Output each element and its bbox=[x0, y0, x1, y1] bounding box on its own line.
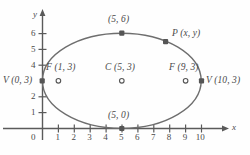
x-tick-label-8: 8 bbox=[167, 133, 172, 142]
x-tick-label-2: 2 bbox=[71, 133, 76, 142]
y-axis-arrow bbox=[40, 9, 46, 16]
marker-point-p bbox=[163, 39, 168, 44]
y-tick-label-2: 2 bbox=[31, 92, 36, 101]
x-tick-label-4: 4 bbox=[103, 133, 108, 142]
x-tick-label-1: 1 bbox=[56, 133, 61, 142]
y-tick-label-4: 4 bbox=[31, 61, 36, 70]
marker-covertex-top bbox=[119, 31, 124, 36]
marker-center bbox=[120, 79, 125, 84]
label-point-p: P (x, y) bbox=[172, 29, 200, 39]
x-tick-label-7: 7 bbox=[151, 133, 156, 142]
x-tick-label-9: 9 bbox=[183, 133, 188, 142]
label-focus-left: F (1, 3) bbox=[46, 63, 76, 73]
figure-canvas: y x 0 1 2 3 4 5 6 7 8 9 10 1 2 4 5 6 V (… bbox=[0, 0, 250, 155]
y-tick-label-1: 1 bbox=[31, 108, 36, 117]
y-tick-label-6: 6 bbox=[31, 29, 36, 38]
y-axis-label: y bbox=[33, 10, 37, 19]
x-axis-arrow bbox=[222, 126, 229, 132]
y-tick-label-5: 5 bbox=[31, 45, 36, 54]
x-tick-label-3: 3 bbox=[87, 133, 92, 142]
x-tick-label-10: 10 bbox=[196, 133, 205, 142]
label-center: C (5, 3) bbox=[105, 63, 135, 73]
label-vertex-right: V (10, 3) bbox=[206, 76, 240, 86]
x-tick-label-5: 5 bbox=[119, 133, 124, 142]
marker-vertex-left bbox=[40, 78, 45, 83]
marker-focus-right bbox=[183, 79, 188, 84]
x-tick-label-6: 6 bbox=[135, 133, 140, 142]
marker-covertex-bottom bbox=[119, 126, 124, 131]
label-vertex-left: V (0, 3) bbox=[3, 76, 32, 86]
marker-vertex-right bbox=[199, 78, 204, 83]
label-covertex-bottom: (5, 0) bbox=[108, 111, 129, 121]
open-point-markers bbox=[56, 79, 188, 84]
label-focus-right: F (9, 3) bbox=[169, 63, 199, 73]
origin-tick-label: 0 bbox=[31, 133, 36, 142]
x-axis-label: x bbox=[232, 123, 236, 132]
label-covertex-top: (5, 6) bbox=[108, 15, 129, 25]
marker-focus-left bbox=[56, 79, 61, 84]
